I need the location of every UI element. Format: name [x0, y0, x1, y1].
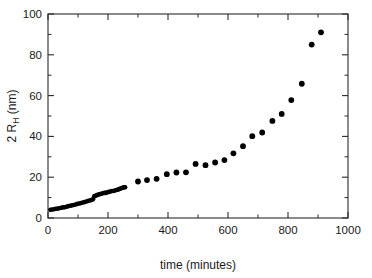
- plot-frame: [48, 14, 348, 218]
- y-tick-label: 20: [29, 171, 42, 183]
- data-point: [279, 111, 285, 117]
- y-tick-label: 40: [29, 130, 42, 142]
- data-point: [231, 150, 237, 156]
- series-sparse-late-sampling: [135, 29, 324, 184]
- y-tick-label: 80: [29, 49, 42, 61]
- y-tick-label: 60: [29, 90, 42, 102]
- data-point: [174, 170, 180, 176]
- axes-frame: [48, 14, 348, 218]
- x-tick-label: 800: [278, 224, 297, 236]
- series-dense-early-sampling: [48, 185, 127, 212]
- data-point: [193, 161, 199, 167]
- data-series-layer: [48, 29, 324, 212]
- x-axis-major-ticks: [48, 14, 348, 218]
- data-point: [259, 130, 265, 136]
- data-point: [240, 143, 246, 149]
- data-point: [249, 133, 255, 139]
- x-tick-label: 0: [45, 224, 51, 236]
- x-axis-tick-labels: 02004006008001000: [45, 224, 361, 236]
- y-axis-title: 2 RH (nm): [5, 90, 21, 143]
- data-point: [123, 185, 128, 190]
- y-tick-label: 0: [36, 212, 42, 224]
- data-point: [154, 176, 160, 182]
- data-point: [144, 177, 150, 183]
- x-axis-title: time (minutes): [160, 258, 236, 272]
- data-point: [135, 179, 141, 185]
- data-point: [222, 157, 228, 163]
- y-tick-label: 100: [23, 8, 42, 20]
- data-point: [183, 169, 189, 175]
- data-point: [299, 81, 305, 87]
- figure-container: 020406080100 02004006008001000 time (min…: [0, 0, 372, 278]
- y-axis-minor-ticks: [48, 34, 348, 197]
- data-point: [270, 118, 276, 124]
- x-tick-label: 400: [158, 224, 177, 236]
- y-axis-title-prefix: 2 R: [5, 123, 19, 142]
- x-tick-label: 1000: [335, 224, 361, 236]
- data-point: [309, 42, 315, 48]
- scatter-plot: 020406080100 02004006008001000 time (min…: [0, 0, 372, 278]
- data-point: [318, 29, 324, 35]
- data-point: [164, 171, 170, 177]
- data-point: [203, 162, 209, 168]
- data-point: [212, 160, 218, 166]
- data-point: [288, 97, 294, 103]
- y-axis-tick-labels: 020406080100: [23, 8, 42, 224]
- x-tick-label: 600: [218, 224, 237, 236]
- y-axis-title-suffix: (nm): [5, 90, 19, 118]
- y-axis-major-ticks: [48, 14, 348, 218]
- x-tick-label: 200: [98, 224, 117, 236]
